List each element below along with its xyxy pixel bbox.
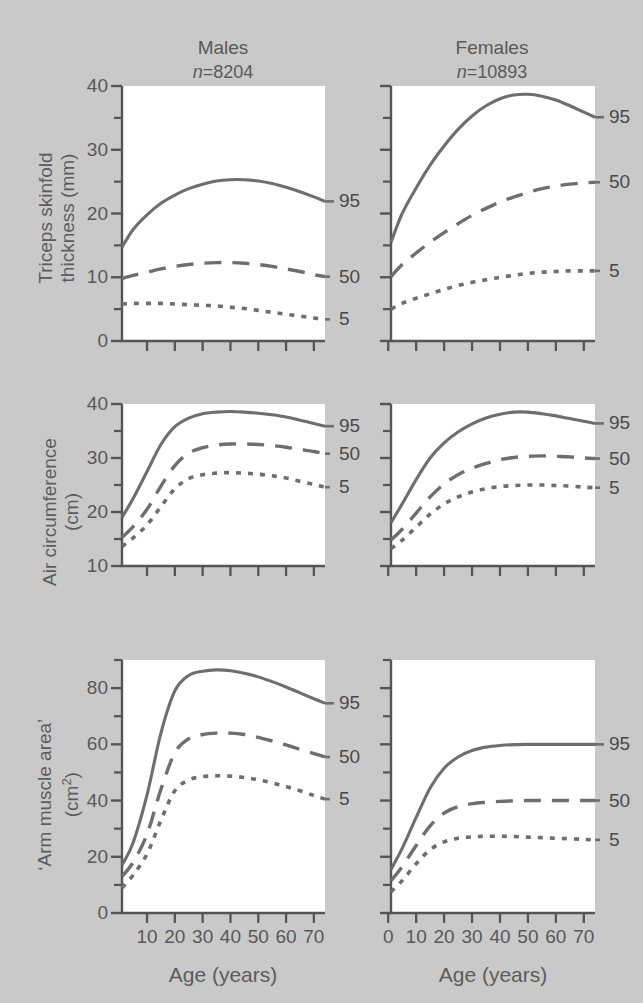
percentile-label-2-females-p50: 50 [609,449,630,468]
plot-area-2-males [122,404,325,566]
y-tick-label-2-males-20: 20 [42,502,108,521]
y-tick-label-1-males-20: 20 [42,204,108,223]
plot-area-1-females [391,86,595,341]
percentile-label-1-males-p95: 95 [339,191,360,210]
x-tick-label-3-females-70: 70 [564,927,604,946]
percentile-label-3-males-p5: 5 [339,789,350,808]
percentile-label-3-males-p50: 50 [339,747,360,766]
y-tick-label-2-males-10: 10 [42,556,108,575]
y-tick-label-1-males-0: 0 [42,331,108,350]
percentile-label-1-males-p5: 5 [339,309,350,328]
y-tick-label-1-males-10: 10 [42,267,108,286]
x-tick-label-3-males-70: 70 [294,927,334,946]
percentile-label-2-males-p50: 50 [339,444,360,463]
percentile-label-1-males-p50: 50 [339,267,360,286]
percentile-label-2-females-p5: 5 [609,478,620,497]
anthropometry-percentile-figure: Males n=8204 Females n=10893 Triceps ski… [0,0,643,1003]
y-tick-label-3-males-60: 60 [42,734,108,753]
percentile-label-1-females-p50: 50 [609,172,630,191]
plot-area-3-females [391,660,595,913]
y-tick-label-1-males-40: 40 [42,76,108,95]
percentile-label-1-females-p5: 5 [609,261,620,280]
percentile-label-3-males-p95: 95 [339,693,360,712]
y-tick-label-2-males-40: 40 [42,394,108,413]
y-tick-label-3-males-40: 40 [42,791,108,810]
percentile-label-3-females-p50: 50 [609,791,630,810]
y-tick-label-3-males-20: 20 [42,847,108,866]
percentile-label-3-females-p5: 5 [609,830,620,849]
percentile-label-1-females-p95: 95 [609,107,630,126]
percentile-label-2-males-p95: 95 [339,416,360,435]
plot-area-3-males [122,660,325,913]
y-tick-label-2-males-30: 30 [42,448,108,467]
percentile-label-2-males-p5: 5 [339,477,350,496]
y-tick-label-3-males-80: 80 [42,678,108,697]
y-tick-label-1-males-30: 30 [42,140,108,159]
percentile-label-2-females-p95: 95 [609,413,630,432]
percentile-label-3-females-p95: 95 [609,734,630,753]
plot-area-1-males [122,86,325,341]
y-tick-label-3-males-0: 0 [42,903,108,922]
